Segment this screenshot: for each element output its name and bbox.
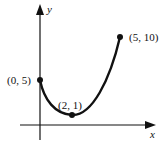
x-axis-label: x: [150, 129, 155, 140]
y-axis-label: y: [47, 4, 52, 15]
point-0-5: [37, 77, 43, 83]
y-axis-arrow-icon: [36, 4, 44, 15]
point-label-2-1: (2, 1): [58, 100, 82, 111]
point-label-0-5: (0, 5): [7, 75, 31, 86]
point-5-10: [117, 34, 123, 40]
point-label-5-10: (5, 10): [129, 32, 158, 43]
point-2-1: [69, 112, 75, 118]
